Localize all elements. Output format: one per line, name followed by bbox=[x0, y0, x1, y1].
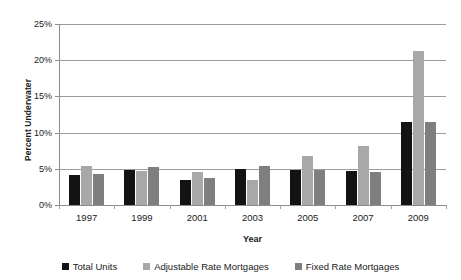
bar-1999-series-3 bbox=[148, 167, 159, 205]
bar-group-2005 bbox=[280, 24, 335, 205]
bar-2007-series-1 bbox=[346, 171, 357, 205]
legend-label: Total Units bbox=[73, 261, 117, 272]
x-tick-label-2003: 2003 bbox=[225, 212, 280, 223]
bar-2003-series-3 bbox=[259, 166, 270, 205]
legend-label: Fixed Rate Mortgages bbox=[306, 261, 399, 272]
x-tick-mark bbox=[114, 205, 115, 209]
bar-1999-series-1 bbox=[124, 170, 135, 205]
y-axis-title: Percent Underwater bbox=[23, 40, 33, 200]
x-tick-label-1999: 1999 bbox=[114, 212, 169, 223]
legend-item-series-1[interactable]: Total Units bbox=[62, 261, 117, 272]
bar-2005-series-2 bbox=[302, 156, 313, 205]
x-tick-label-2001: 2001 bbox=[170, 212, 225, 223]
x-tick-label-2005: 2005 bbox=[280, 212, 335, 223]
bar-2007-series-2 bbox=[358, 146, 369, 205]
legend-label: Adjustable Rate Mortgages bbox=[154, 261, 269, 272]
bar-2003-series-2 bbox=[247, 180, 258, 205]
x-tick-mark bbox=[280, 205, 281, 209]
bar-group-2003 bbox=[225, 24, 280, 205]
bar-2001-series-2 bbox=[192, 172, 203, 205]
bar-1997-series-2 bbox=[81, 166, 92, 205]
x-tick-label-2007: 2007 bbox=[335, 212, 390, 223]
y-tick-label: 20% bbox=[34, 55, 52, 65]
bar-1997-series-1 bbox=[69, 175, 80, 205]
bar-2001-series-1 bbox=[180, 180, 191, 205]
y-tick-label: 15% bbox=[34, 91, 52, 101]
x-axis-title: Year bbox=[59, 234, 446, 244]
bar-2007-series-3 bbox=[370, 172, 381, 205]
x-tick-mark bbox=[335, 205, 336, 209]
x-tick-mark bbox=[391, 205, 392, 209]
legend-item-series-3[interactable]: Fixed Rate Mortgages bbox=[295, 261, 399, 272]
y-tick-label: 10% bbox=[34, 128, 52, 138]
bar-2005-series-1 bbox=[290, 170, 301, 205]
legend-swatch-icon bbox=[62, 263, 69, 270]
bar-2009-series-3 bbox=[425, 122, 436, 205]
legend-item-series-2[interactable]: Adjustable Rate Mortgages bbox=[143, 261, 269, 272]
x-axis-line bbox=[59, 205, 446, 206]
chart-legend: Total UnitsAdjustable Rate MortgagesFixe… bbox=[0, 261, 461, 272]
y-tick-label: 5% bbox=[39, 164, 52, 174]
bar-2001-series-3 bbox=[204, 178, 215, 205]
bar-2003-series-1 bbox=[235, 169, 246, 205]
x-tick-mark bbox=[170, 205, 171, 209]
bar-group-2009 bbox=[391, 24, 446, 205]
x-tick-mark bbox=[59, 205, 60, 209]
bar-1999-series-2 bbox=[136, 171, 147, 205]
x-tick-label-2009: 2009 bbox=[391, 212, 446, 223]
y-tick-label: 0% bbox=[39, 200, 52, 210]
bar-2009-series-1 bbox=[401, 122, 412, 205]
bar-group-2001 bbox=[170, 24, 225, 205]
chart-container: Percent Underwater 0%5%10%15%20%25% 1997… bbox=[0, 0, 461, 280]
legend-swatch-icon bbox=[295, 263, 302, 270]
bar-group-1997 bbox=[59, 24, 114, 205]
bar-1997-series-3 bbox=[93, 174, 104, 205]
x-tick-label-1997: 1997 bbox=[59, 212, 114, 223]
bar-group-2007 bbox=[335, 24, 390, 205]
y-tick-label: 25% bbox=[34, 19, 52, 29]
legend-swatch-icon bbox=[143, 263, 150, 270]
x-tick-mark bbox=[225, 205, 226, 209]
bar-2005-series-3 bbox=[314, 170, 325, 205]
x-tick-mark bbox=[446, 205, 447, 209]
plot-area: 0%5%10%15%20%25% 19971999200120032005200… bbox=[59, 24, 446, 206]
bar-group-1999 bbox=[114, 24, 169, 205]
bar-2009-series-2 bbox=[413, 51, 424, 205]
